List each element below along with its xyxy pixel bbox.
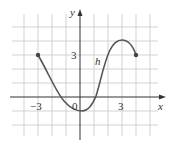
y-axis-arrow-icon <box>78 9 83 16</box>
endpoint-left <box>36 53 40 57</box>
y-axis-label: y <box>69 6 75 18</box>
x-axis-label: x <box>157 100 163 112</box>
tick-label-y-3: 3 <box>71 49 77 61</box>
function-label-h: h <box>95 55 101 67</box>
tick-label-origin: 0 <box>72 100 78 112</box>
axes <box>10 14 160 140</box>
endpoint-right <box>134 53 138 57</box>
grid <box>12 14 158 136</box>
function-graph: y x −3 0 3 3 h <box>0 0 173 144</box>
tick-label-x-neg3: −3 <box>30 100 42 112</box>
x-axis-arrow-icon <box>159 95 166 100</box>
tick-label-x-3: 3 <box>118 100 124 112</box>
